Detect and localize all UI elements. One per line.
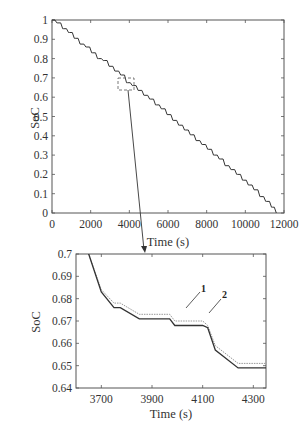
- series-1-label: 1: [201, 283, 206, 294]
- y-tick-label: 0.1: [34, 188, 49, 200]
- y-tick-label: 0.3: [34, 149, 49, 161]
- x-tick-label: 10000: [231, 218, 260, 230]
- x-tick-label: 3700: [90, 393, 113, 405]
- series-2-label: 2: [222, 289, 227, 300]
- bottom-x-axis: 3700390041004300: [90, 254, 265, 405]
- x-tick-label: 4100: [191, 393, 214, 405]
- y-tick-label: 0.8: [34, 53, 49, 65]
- top-chart: 00.10.20.30.40.50.60.70.80.91 0200040006…: [28, 14, 299, 253]
- bottom-x-label: Time (s): [150, 407, 192, 421]
- top-y-axis: 00.10.20.30.40.50.60.70.80.91: [34, 14, 284, 219]
- series-2-curve: [76, 232, 266, 368]
- x-tick-label: 12000: [270, 218, 299, 230]
- y-tick-label: 0.66: [52, 337, 72, 349]
- y-tick-label: 0.4: [34, 130, 49, 142]
- top-x-axis: 020004000600080001000012000: [49, 20, 299, 230]
- x-tick-label: 8000: [195, 218, 218, 230]
- bottom-chart: 0.640.650.660.670.680.690.7 370039004100…: [29, 232, 266, 421]
- y-tick-label: 1: [42, 14, 48, 26]
- figure: 00.10.20.30.40.50.60.70.80.91 0200040006…: [0, 0, 306, 439]
- y-tick-label: 0.7: [34, 72, 49, 84]
- y-tick-label: 0.7: [58, 248, 73, 260]
- x-tick-label: 0: [49, 218, 55, 230]
- bottom-y-label: SoC: [29, 311, 43, 333]
- x-tick-label: 3900: [141, 393, 164, 405]
- top-plot-frame: [52, 20, 284, 213]
- y-tick-label: 0.65: [52, 360, 72, 372]
- y-tick-label: 0.9: [34, 33, 49, 45]
- bottom-y-axis: 0.640.650.660.670.680.690.7: [52, 248, 266, 394]
- x-tick-label: 4000: [118, 218, 141, 230]
- top-y-label: SoC: [28, 107, 42, 129]
- y-tick-label: 0.2: [34, 168, 49, 180]
- top-soc-curve: [52, 20, 276, 213]
- y-tick-label: 0.67: [52, 315, 72, 327]
- top-x-label: Time (s): [147, 235, 189, 249]
- y-tick-label: 0.68: [52, 293, 72, 305]
- x-tick-label: 6000: [157, 218, 180, 230]
- label-2-leader: [209, 299, 221, 313]
- y-tick-label: 0: [42, 207, 48, 219]
- label-1-leader: [186, 292, 200, 308]
- y-tick-label: 0.6: [34, 91, 49, 103]
- y-tick-label: 0.64: [52, 382, 72, 394]
- y-tick-label: 0.69: [52, 270, 72, 282]
- x-tick-label: 4300: [242, 393, 265, 405]
- x-tick-label: 2000: [79, 218, 102, 230]
- series-1-curve: [76, 232, 266, 364]
